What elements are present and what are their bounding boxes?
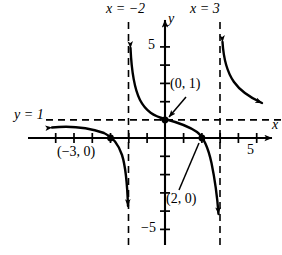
- point-neg3-0: [107, 135, 114, 142]
- curve-right-branch: [223, 42, 263, 103]
- point-label-0-1: (0, 1): [170, 77, 200, 91]
- point-0-1: [162, 117, 169, 124]
- y-axis-label: y: [168, 12, 174, 26]
- leader-line-point-2-0: [179, 143, 199, 190]
- rational-function-graph: x = −2 x = 3 y x y = 1 5 −5 5 (0, 1) (−3…: [0, 0, 282, 255]
- point-label-2-0: (2, 0): [166, 192, 196, 206]
- graph-canvas: [0, 0, 282, 255]
- point-label-neg3-0: (−3, 0): [57, 145, 95, 159]
- asymptote-label-y-1: y = 1: [14, 108, 44, 122]
- y-tick-label-5: 5: [148, 38, 155, 52]
- point-2-0: [199, 135, 206, 142]
- y-tick-label-neg5: −5: [141, 221, 156, 235]
- x-tick-label-5: 5: [247, 143, 254, 157]
- asymptote-label-x-3: x = 3: [190, 2, 220, 16]
- asymptote-label-x-neg2: x = −2: [106, 2, 145, 16]
- x-axis-label: x: [272, 118, 278, 132]
- curve-middle-branch: [131, 48, 219, 214]
- leader-line-point-0-1: [169, 97, 186, 117]
